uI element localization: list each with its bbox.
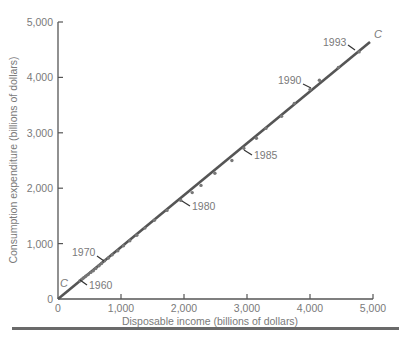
data-point — [107, 256, 110, 259]
x-tick-label: 0 — [55, 302, 61, 314]
svg-text:1993: 1993 — [323, 36, 347, 48]
data-point — [97, 264, 100, 267]
annotation-1990: 1990 — [278, 74, 311, 88]
y-axis-title: Consumption expenditure (billions of dol… — [7, 56, 19, 263]
data-point — [111, 253, 114, 256]
annotation-1985: 1985 — [244, 149, 278, 161]
data-point — [242, 147, 245, 150]
x-axis-title: Disposable income (billions of dollars) — [122, 315, 298, 327]
y-tick-label: 2,000 — [27, 182, 53, 194]
data-point — [122, 244, 125, 247]
data-point — [230, 159, 233, 162]
x-axis — [58, 294, 373, 299]
data-point — [94, 267, 97, 270]
x-tick-label: 4,000 — [297, 302, 323, 314]
svg-text:1985: 1985 — [254, 149, 278, 161]
data-point — [255, 137, 258, 140]
svg-text:1970: 1970 — [72, 246, 96, 258]
x-tick-label: 5,000 — [360, 302, 386, 314]
x-tick-label: 3,000 — [234, 302, 260, 314]
data-point — [293, 102, 296, 105]
y-tick-label: 0 — [47, 293, 53, 305]
consumption-function-chart: 5,000 4,000 3,000 2,000 1,000 0 0 1,000 … — [0, 0, 399, 340]
data-point — [318, 79, 321, 82]
data-point — [308, 88, 311, 91]
svg-text:1960: 1960 — [89, 279, 113, 291]
x-tick-label: 2,000 — [171, 302, 197, 314]
data-point — [199, 184, 202, 187]
line-c-label-origin: C — [60, 277, 68, 289]
y-tick-label: 4,000 — [27, 71, 53, 83]
annotation-1970: 1970 — [72, 246, 104, 261]
line-c-label-top: C — [374, 28, 382, 40]
data-point — [191, 191, 194, 194]
annotation-1993: 1993 — [323, 36, 355, 50]
y-tick-label: 3,000 — [27, 127, 53, 139]
svg-text:1990: 1990 — [278, 74, 302, 86]
data-point — [337, 66, 340, 69]
x-tick-label: 1,000 — [108, 302, 134, 314]
data-point — [357, 50, 360, 53]
y-tick-label: 1,000 — [27, 238, 53, 250]
svg-text:1980: 1980 — [192, 200, 216, 212]
bottom-rule — [12, 327, 399, 330]
data-point — [87, 273, 90, 276]
data-point — [116, 249, 119, 252]
annotation-1980: 1980 — [182, 200, 216, 212]
data-point — [135, 234, 138, 237]
data-point — [100, 262, 103, 265]
y-tick-label: 5,000 — [27, 16, 53, 28]
data-point — [143, 226, 146, 229]
annotation-1960: 1960 — [80, 279, 113, 291]
data-point — [264, 127, 267, 130]
y-axis — [58, 22, 63, 299]
data-point — [153, 219, 156, 222]
data-point — [165, 209, 168, 212]
data-point — [128, 239, 131, 242]
data-point — [213, 172, 216, 175]
data-point — [280, 115, 283, 118]
